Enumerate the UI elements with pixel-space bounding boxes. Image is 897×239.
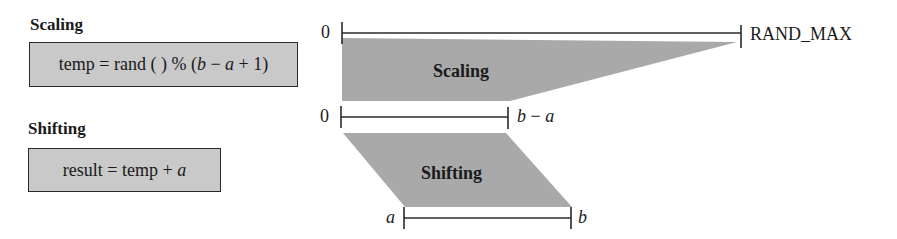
top-range-end-label: RAND_MAX [750, 24, 852, 45]
bottom-range-end-label: b [578, 207, 587, 228]
scaling-shape-label: Scaling [433, 61, 489, 82]
middle-range-start-label: 0 [320, 106, 329, 127]
var-a: a [545, 106, 554, 126]
bottom-range-start-label: a [386, 207, 395, 228]
minus-sign: − [526, 106, 545, 126]
var-b: b [517, 106, 526, 126]
middle-range-end-label: b − a [517, 106, 554, 127]
top-range-start-label: 0 [321, 22, 330, 43]
shifting-shape-label: Shifting [421, 163, 482, 184]
scaling-shape [342, 38, 737, 101]
